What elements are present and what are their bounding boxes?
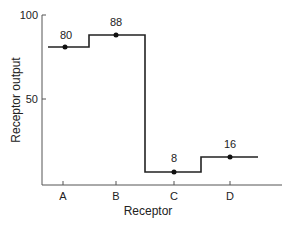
x-tick-label-d: D: [226, 190, 234, 202]
y-tick-label-100: 100: [20, 9, 38, 21]
y-tick-label-50: 50: [26, 93, 38, 105]
data-label-d: 16: [224, 138, 236, 150]
x-axis-label: Receptor: [124, 204, 173, 218]
data-point-b: [114, 33, 119, 38]
data-label-b: 88: [110, 16, 122, 28]
y-axis-label: Receptor output: [9, 57, 23, 143]
receptor-output-chart: 100 50 A B C D Receptor Receptor output …: [0, 0, 293, 228]
x-tick-label-a: A: [59, 190, 67, 202]
data-label-c: 8: [171, 152, 177, 164]
x-tick-label-b: B: [112, 190, 119, 202]
step-line: [48, 35, 258, 172]
data-label-a: 80: [60, 29, 72, 41]
data-point-c: [172, 170, 177, 175]
data-point-a: [63, 45, 68, 50]
data-point-d: [228, 155, 233, 160]
x-tick-label-c: C: [170, 190, 178, 202]
